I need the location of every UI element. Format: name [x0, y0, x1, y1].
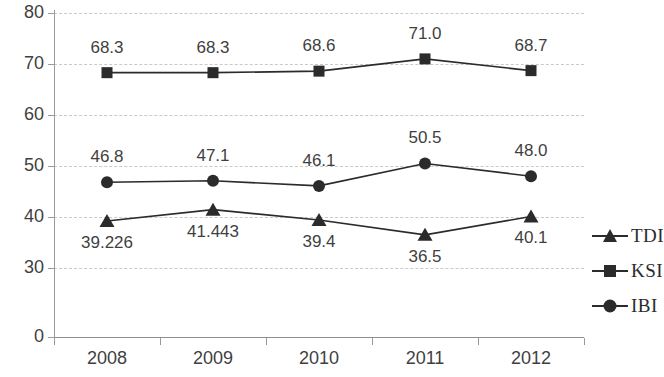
- legend: TDI KSI IBI: [592, 218, 664, 323]
- circle-marker-icon: [592, 296, 628, 316]
- data-label-tdi-2009: 41.443: [168, 222, 258, 242]
- line-chart: 8070605040300 20082009201020112012 39.22…: [0, 0, 664, 377]
- data-label-ibi-2010: 46.1: [274, 151, 364, 171]
- data-label-tdi-2008: 39.226: [62, 233, 152, 253]
- legend-label-ibi: IBI: [628, 295, 658, 317]
- data-label-ksi-2012: 68.7: [486, 36, 576, 56]
- data-label-ibi-2011: 50.5: [380, 128, 470, 148]
- legend-item-tdi[interactable]: TDI: [592, 218, 664, 253]
- data-point-ksi-2012[interactable]: [526, 65, 537, 76]
- data-label-ibi-2009: 47.1: [168, 146, 258, 166]
- legend-label-ksi: KSI: [628, 260, 663, 282]
- data-label-tdi-2012: 40.1: [486, 228, 576, 248]
- legend-item-ibi[interactable]: IBI: [592, 288, 664, 323]
- square-marker-icon: [592, 261, 628, 281]
- data-point-ibi-2008[interactable]: [101, 176, 113, 188]
- data-point-ibi-2010[interactable]: [313, 180, 325, 192]
- data-point-ibi-2011[interactable]: [419, 157, 431, 169]
- data-label-ksi-2011: 71.0: [380, 24, 470, 44]
- data-point-ksi-2008[interactable]: [102, 67, 113, 78]
- data-point-ibi-2009[interactable]: [207, 175, 219, 187]
- triangle-marker-icon: [592, 226, 628, 246]
- legend-label-tdi: TDI: [628, 225, 664, 247]
- data-label-ibi-2012: 48.0: [486, 141, 576, 161]
- data-point-ibi-2012[interactable]: [525, 170, 537, 182]
- data-label-tdi-2010: 39.4: [274, 232, 364, 252]
- data-point-ksi-2011[interactable]: [420, 53, 431, 64]
- data-point-tdi-2012[interactable]: [524, 209, 539, 222]
- data-point-ksi-2010[interactable]: [314, 66, 325, 77]
- data-label-ksi-2009: 68.3: [168, 38, 258, 58]
- data-label-ksi-2008: 68.3: [62, 38, 152, 58]
- data-label-tdi-2011: 36.5: [380, 247, 470, 267]
- data-point-ksi-2009[interactable]: [208, 67, 219, 78]
- data-point-tdi-2009[interactable]: [206, 203, 221, 216]
- data-label-ibi-2008: 46.8: [62, 147, 152, 167]
- data-label-ksi-2010: 68.6: [274, 36, 364, 56]
- legend-item-ksi[interactable]: KSI: [592, 253, 664, 288]
